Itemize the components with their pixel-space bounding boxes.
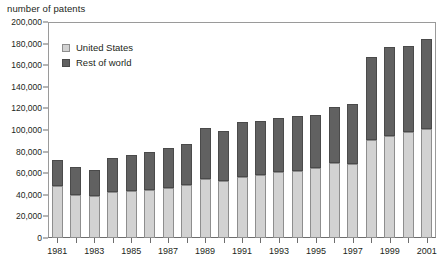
x-axis-tick-label: 1983: [84, 246, 104, 256]
x-axis-tick-label: 1993: [269, 246, 289, 256]
legend-item-united-states: United States: [62, 41, 133, 54]
bar-1992: [255, 121, 266, 238]
legend-item-label: United States: [76, 42, 133, 53]
bar-segment-united-states: [163, 188, 174, 238]
y-axis-tick-label: 200,000: [11, 17, 42, 27]
bar-2000: [403, 46, 414, 238]
bar-1999: [384, 47, 395, 238]
x-axis-tick-mark: [187, 238, 188, 243]
bar-segment-rest-of-world: [421, 39, 432, 130]
legend-item-rest-of-world: Rest of world: [62, 56, 133, 69]
x-axis-ticks: [48, 238, 436, 244]
bar-1995: [310, 115, 321, 238]
bar-segment-rest-of-world: [273, 118, 284, 171]
x-axis-tick-label: 1987: [158, 246, 178, 256]
y-axis-tick-label: 0: [37, 233, 42, 243]
bar-segment-united-states: [273, 172, 284, 238]
bar-segment-united-states: [347, 164, 358, 238]
x-axis-tick-mark: [371, 238, 372, 243]
bar-segment-rest-of-world: [200, 128, 211, 179]
bar-segment-united-states: [403, 132, 414, 238]
bar-segment-united-states: [329, 163, 340, 238]
bar-1990: [218, 131, 229, 238]
x-axis: 1981198319851987198919911993199519971999…: [48, 246, 436, 262]
bar-1982: [70, 167, 81, 238]
x-axis-tick-mark: [113, 238, 114, 243]
x-axis-tick-mark: [353, 238, 354, 243]
x-axis-tick-mark: [150, 238, 151, 243]
bar-segment-rest-of-world: [144, 152, 155, 190]
patents-stacked-bar-chart: number of patents 200,000180,000160,0001…: [0, 0, 443, 268]
x-axis-tick-mark: [334, 238, 335, 243]
x-axis-tick-mark: [408, 238, 409, 243]
bar-segment-united-states: [107, 192, 118, 238]
bar-segment-rest-of-world: [181, 144, 192, 185]
bar-segment-united-states: [384, 136, 395, 238]
x-axis-tick-label: 2001: [417, 246, 437, 256]
bar-segment-rest-of-world: [310, 115, 321, 167]
bar-segment-rest-of-world: [347, 104, 358, 164]
x-axis-tick-label: 1985: [121, 246, 141, 256]
bar-segment-united-states: [126, 191, 137, 238]
bar-segment-united-states: [200, 179, 211, 238]
y-axis-tick-label: 180,000: [11, 39, 42, 49]
bar-1985: [126, 155, 137, 238]
bar-1998: [366, 57, 377, 238]
bar-1981: [52, 160, 63, 238]
bar-segment-rest-of-world: [218, 131, 229, 181]
bar-segment-united-states: [70, 195, 81, 238]
dark-gray-square-icon: [62, 59, 70, 67]
bar-segment-rest-of-world: [329, 107, 340, 163]
bar-segment-rest-of-world: [255, 121, 266, 176]
y-axis-tick-label: 20,000: [16, 211, 42, 221]
x-axis-tick-label: 1999: [380, 246, 400, 256]
x-axis-tick-mark: [260, 238, 261, 243]
x-axis-tick-mark: [76, 238, 77, 243]
bar-segment-united-states: [255, 175, 266, 238]
bar-segment-united-states: [52, 186, 63, 238]
x-axis-tick-mark: [316, 238, 317, 243]
bar-1984: [107, 158, 118, 238]
bar-segment-united-states: [237, 177, 248, 238]
x-axis-tick-mark: [131, 238, 132, 243]
x-axis-tick-label: 1991: [232, 246, 252, 256]
bar-segment-rest-of-world: [107, 158, 118, 192]
bar-1987: [163, 148, 174, 238]
bar-segment-rest-of-world: [52, 160, 63, 186]
x-axis-tick-mark: [297, 238, 298, 243]
y-axis-tick-label: 120,000: [11, 103, 42, 113]
legend-item-label: Rest of world: [76, 57, 131, 68]
bar-segment-rest-of-world: [384, 47, 395, 136]
bar-1994: [292, 116, 303, 238]
x-axis-tick-label: 1997: [343, 246, 363, 256]
y-axis-tick-label: 60,000: [16, 168, 42, 178]
x-axis-tick-mark: [279, 238, 280, 243]
y-axis-tick-label: 100,000: [11, 125, 42, 135]
bar-1989: [200, 128, 211, 238]
bar-1983: [89, 170, 100, 238]
x-axis-tick-mark: [205, 238, 206, 243]
bar-1996: [329, 107, 340, 238]
bar-segment-rest-of-world: [163, 148, 174, 187]
x-axis-tick-mark: [57, 238, 58, 243]
bar-segment-united-states: [421, 129, 432, 238]
bar-segment-united-states: [218, 181, 229, 238]
bar-1993: [273, 118, 284, 238]
chart-legend: United States Rest of world: [62, 41, 133, 71]
bar-1986: [144, 152, 155, 238]
y-axis-tick-label: 140,000: [11, 82, 42, 92]
chart-title: number of patents: [7, 3, 85, 14]
y-axis-tick-label: 80,000: [16, 147, 42, 157]
x-axis-tick-label: 1981: [47, 246, 67, 256]
x-axis-tick-mark: [427, 238, 428, 243]
bar-segment-rest-of-world: [366, 57, 377, 140]
y-axis-tick-label: 160,000: [11, 60, 42, 70]
bar-segment-united-states: [181, 185, 192, 238]
bar-segment-united-states: [366, 140, 377, 238]
x-axis-tick-mark: [390, 238, 391, 243]
x-axis-tick-label: 1989: [195, 246, 215, 256]
bar-segment-united-states: [89, 196, 100, 238]
bar-segment-rest-of-world: [237, 122, 248, 177]
x-axis-tick-mark: [224, 238, 225, 243]
x-axis-tick-mark: [168, 238, 169, 243]
